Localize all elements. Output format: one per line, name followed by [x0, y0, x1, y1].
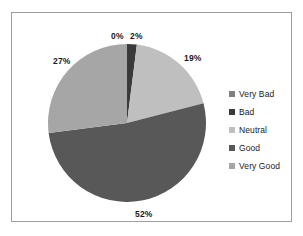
data-label-good: 52%: [135, 209, 153, 219]
legend-item-bad[interactable]: Bad: [229, 103, 301, 120]
chart-legend: Very Bad Bad Neutral Good Very Good: [229, 85, 301, 175]
legend-swatch-icon: [229, 109, 235, 115]
pie-svg: [47, 43, 207, 203]
data-label-very-good: 27%: [53, 56, 71, 66]
pie-area: [47, 43, 207, 203]
legend-swatch-icon: [229, 145, 235, 151]
data-label-neutral: 19%: [184, 53, 202, 63]
data-label-very-bad: 0%: [111, 31, 124, 41]
legend-item-neutral[interactable]: Neutral: [229, 121, 301, 138]
pie-chart-figure: 0% 2% 19% 52% 27% Very Bad Bad Neutral G…: [0, 0, 303, 236]
legend-item-very-bad[interactable]: Very Bad: [229, 85, 301, 102]
legend-item-good[interactable]: Good: [229, 139, 301, 156]
legend-label: Bad: [239, 107, 254, 117]
legend-label: Very Good: [239, 161, 280, 171]
data-label-bad: 2%: [130, 31, 143, 41]
pie-slices-group: [48, 44, 206, 202]
legend-swatch-icon: [229, 91, 235, 97]
legend-label: Good: [239, 143, 260, 153]
legend-label: Neutral: [239, 125, 267, 135]
legend-swatch-icon: [229, 127, 235, 133]
legend-item-very-good[interactable]: Very Good: [229, 157, 301, 174]
legend-label: Very Bad: [239, 89, 274, 99]
legend-swatch-icon: [229, 163, 235, 169]
chart-plot-frame: 0% 2% 19% 52% 27% Very Bad Bad Neutral G…: [11, 12, 292, 222]
